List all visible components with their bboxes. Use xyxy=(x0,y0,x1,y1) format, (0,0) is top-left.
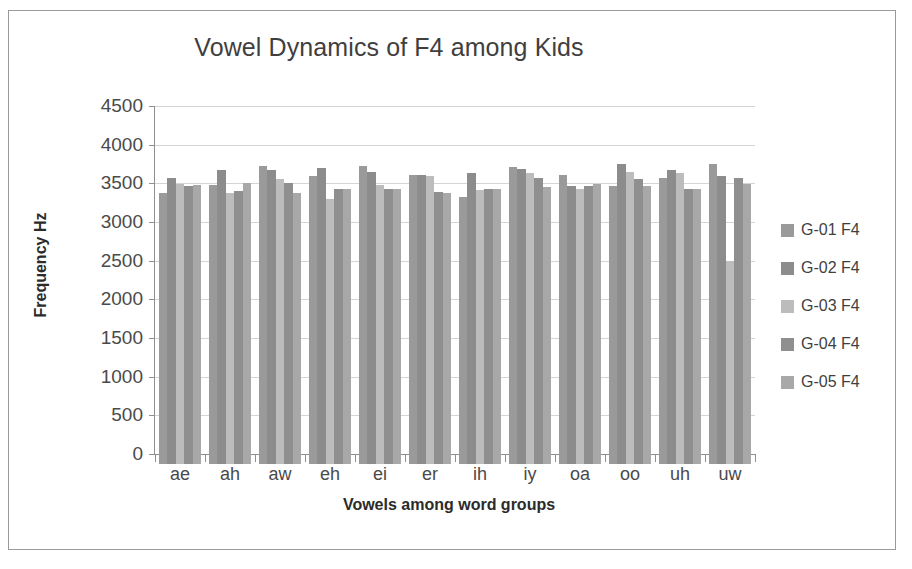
legend-item[interactable]: G-01 F4 xyxy=(781,211,891,249)
bar-group xyxy=(305,116,355,464)
bar-group xyxy=(655,116,705,464)
bar xyxy=(659,178,667,464)
page-frame: Vowel Dynamics of F4 among Kids Frequenc… xyxy=(8,10,896,550)
bar xyxy=(167,178,175,464)
x-tick-label: er xyxy=(405,464,455,485)
bar xyxy=(176,184,184,464)
y-tick-label: 3000 xyxy=(23,211,143,233)
chart-title: Vowel Dynamics of F4 among Kids xyxy=(9,33,769,62)
y-tick-label: 3500 xyxy=(23,172,143,194)
y-tick-mark xyxy=(149,145,155,146)
x-tick-mark xyxy=(605,454,606,462)
bar xyxy=(567,186,575,464)
bar xyxy=(343,189,351,464)
x-tick-mark xyxy=(155,454,156,462)
legend-item[interactable]: G-02 F4 xyxy=(781,249,891,287)
y-tick-mark xyxy=(149,222,155,223)
legend-label: G-05 F4 xyxy=(801,373,860,391)
bar xyxy=(684,189,692,464)
bar xyxy=(326,199,334,464)
bar xyxy=(676,173,684,464)
x-tick-mark xyxy=(705,454,706,462)
bar xyxy=(593,184,601,464)
bar xyxy=(443,193,451,464)
legend-swatch-icon xyxy=(781,300,794,313)
bar xyxy=(209,185,217,464)
bar xyxy=(743,184,751,464)
bar xyxy=(484,189,492,464)
bars-layer xyxy=(155,116,755,464)
bar xyxy=(259,166,267,465)
bar xyxy=(726,261,734,464)
legend-swatch-icon xyxy=(781,262,794,275)
x-axis-ticks xyxy=(155,454,755,462)
x-tick-mark xyxy=(305,454,306,462)
bar xyxy=(267,170,275,464)
bar-group xyxy=(455,116,505,464)
x-tick-label: eh xyxy=(305,464,355,485)
bar xyxy=(359,166,367,464)
bar xyxy=(617,164,625,464)
bar-group xyxy=(705,116,755,464)
bar xyxy=(667,170,675,464)
legend-swatch-icon xyxy=(781,338,794,351)
x-tick-mark xyxy=(355,454,356,462)
plot-inner xyxy=(155,106,755,454)
bar xyxy=(509,167,517,464)
x-tick-mark xyxy=(755,454,756,462)
bar xyxy=(184,186,192,464)
bar xyxy=(643,186,651,464)
y-tick-mark xyxy=(149,183,155,184)
x-axis-title: Vowels among word groups xyxy=(139,496,759,514)
chart-legend: G-01 F4G-02 F4G-03 F4G-04 F4G-05 F4 xyxy=(781,211,891,401)
y-tick-label: 2000 xyxy=(23,288,143,310)
bar xyxy=(584,186,592,464)
bar xyxy=(459,197,467,464)
bar xyxy=(634,179,642,464)
y-tick-label: 0 xyxy=(23,443,143,465)
bar xyxy=(517,169,525,464)
bar xyxy=(526,173,534,464)
bar-group xyxy=(155,116,205,464)
bar xyxy=(693,189,701,464)
x-tick-mark xyxy=(505,454,506,462)
bar xyxy=(243,183,251,464)
y-tick-label: 4000 xyxy=(23,134,143,156)
bar xyxy=(467,173,475,464)
bar xyxy=(317,168,325,464)
bar xyxy=(576,189,584,464)
bar xyxy=(609,186,617,464)
y-tick-label: 1000 xyxy=(23,366,143,388)
y-tick-label: 4500 xyxy=(23,95,143,117)
legend-item[interactable]: G-05 F4 xyxy=(781,363,891,401)
y-tick-label: 500 xyxy=(23,404,143,426)
bar-chart: Vowel Dynamics of F4 among Kids Frequenc… xyxy=(9,11,897,551)
bar-group xyxy=(505,116,555,464)
bar xyxy=(217,170,225,464)
bar xyxy=(384,189,392,464)
bar xyxy=(493,189,501,464)
bar xyxy=(543,187,551,464)
x-tick-label: ei xyxy=(355,464,405,485)
bar xyxy=(417,175,425,464)
x-tick-mark xyxy=(205,454,206,462)
legend-item[interactable]: G-04 F4 xyxy=(781,325,891,363)
y-tick-mark xyxy=(149,415,155,416)
bar xyxy=(309,176,317,464)
bar-group xyxy=(355,116,405,464)
legend-label: G-03 F4 xyxy=(801,297,860,315)
bar xyxy=(709,164,717,464)
bar-group xyxy=(255,116,305,464)
y-tick-mark xyxy=(149,106,155,107)
bar xyxy=(226,193,234,464)
legend-item[interactable]: G-03 F4 xyxy=(781,287,891,325)
bar xyxy=(409,175,417,464)
bar-group xyxy=(605,116,655,464)
x-tick-label: ah xyxy=(205,464,255,485)
bar-group xyxy=(205,116,255,464)
x-axis-labels: aeahaweheierihiyoaoouhuw xyxy=(155,464,755,485)
legend-label: G-02 F4 xyxy=(801,259,860,277)
bar xyxy=(376,185,384,464)
legend-label: G-01 F4 xyxy=(801,221,860,239)
bar xyxy=(284,183,292,464)
